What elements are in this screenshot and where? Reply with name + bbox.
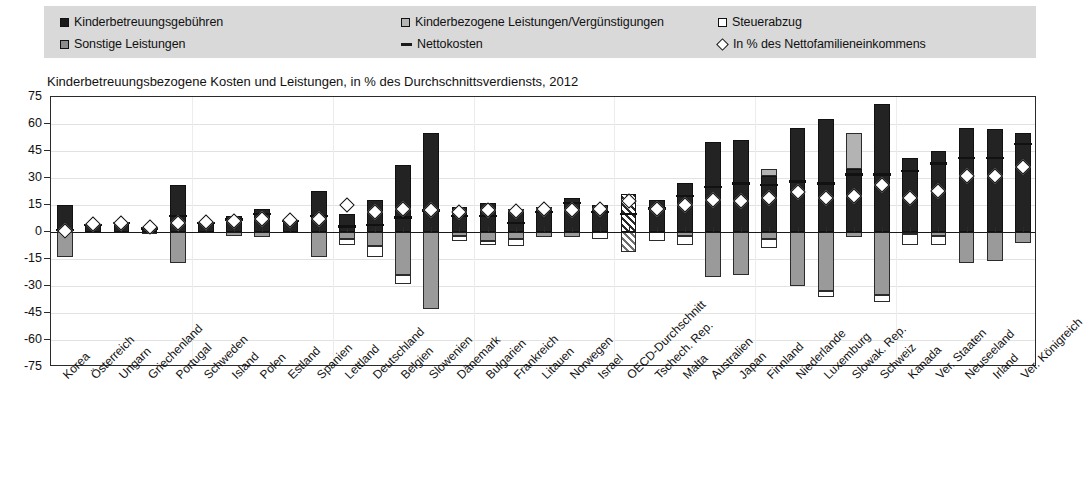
bar-segment-tax-deduction [395,275,411,284]
bar-segment-child-benefits [367,232,383,246]
nettokosten-marker [394,216,412,218]
y-tick-label: -75 [0,359,42,373]
nettokosten-marker [930,162,948,164]
nettokosten-marker [845,173,863,175]
x-axis-labels: KoreaÖsterreichUngarnGriechenlandPortuga… [50,368,1036,493]
bar-segment-child-benefits [874,232,890,295]
nettokosten-marker [760,184,778,186]
bar-segment-tax-deduction [931,236,947,245]
bar-segment-other-benefits [761,169,777,176]
bar-segment-child-benefits [311,232,327,257]
y-tick-label: -15 [0,251,42,265]
y-tick-label: -45 [0,305,42,319]
nettokosten-marker [704,186,722,188]
gridline-vertical [755,97,756,365]
bar-segment-child-benefits [621,232,637,252]
zero-axis-line [51,232,1035,233]
nettokosten-marker [366,224,384,226]
bar-segment-fees [818,119,834,232]
bar-segment-child-benefits [423,232,439,309]
bar-group[interactable] [57,97,73,365]
bar-segment-tax-deduction [902,234,918,245]
bar-segment-child-benefits [705,232,721,277]
y-tick-label: 45 [0,143,42,157]
bar-segment-tax-deduction [339,239,355,244]
bar-segment-other-benefits [846,133,862,169]
bar-segment-tax-deduction [677,236,693,245]
bar-segment-fees [874,104,890,232]
nettokosten-marker [901,170,919,172]
bar-segment-tax-deduction [508,239,524,246]
diamond-marker [339,197,355,213]
nettokosten-marker [958,157,976,159]
nettokosten-marker [620,213,638,215]
nettokosten-marker [817,182,835,184]
bar-segment-fees [733,140,749,232]
bar-segment-tax-deduction [367,246,383,257]
bar-segment-tax-deduction [761,239,777,248]
nettokosten-marker [338,225,356,227]
bar-segment-child-benefits [170,232,186,263]
y-tick-label: 0 [0,224,42,238]
bar-segment-tax-deduction [452,236,468,241]
gridline-vertical [614,97,615,365]
bar-segment-tax-deduction [818,291,834,296]
nettokosten-marker [873,173,891,175]
y-tick-label: 15 [0,197,42,211]
bar-group[interactable] [85,97,101,365]
bar-group[interactable] [170,97,186,365]
bar-segment-tax-deduction [874,295,890,302]
bar-segment-child-benefits [733,232,749,275]
y-tick-label: 30 [0,170,42,184]
bar-segment-fees [395,165,411,232]
bar-segment-child-benefits [395,232,411,275]
nettokosten-marker [732,182,750,184]
nettokosten-marker [1014,143,1032,145]
bar-segment-fees [1015,133,1031,232]
y-tick-label: 60 [0,116,42,130]
bar-segment-child-benefits [1015,232,1031,243]
bar-segment-child-benefits [987,232,1003,261]
bar-segment-child-benefits [790,232,806,286]
nettokosten-marker [789,180,807,182]
bar-segment-tax-deduction [480,241,496,245]
gridline-vertical [474,97,475,365]
y-tick-label: 75 [0,89,42,103]
bar-segment-child-benefits [959,232,975,263]
y-tick-label: -60 [0,332,42,346]
bar-segment-child-benefits [818,232,834,291]
gridline-vertical [333,97,334,365]
y-tick-label: -30 [0,278,42,292]
nettokosten-marker [507,222,525,224]
nettokosten-marker [986,157,1004,159]
bar-group[interactable] [142,97,158,365]
